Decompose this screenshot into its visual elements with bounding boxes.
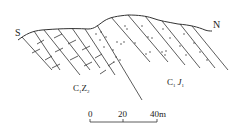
- scale-bar: 0 20 40m: [88, 109, 166, 122]
- sand-dot: [147, 36, 148, 37]
- sand-dot: [95, 33, 96, 34]
- bedding-line: [85, 29, 115, 75]
- sand-dot: [113, 61, 114, 62]
- sand-dot: [193, 42, 194, 43]
- sand-dot: [145, 53, 146, 54]
- sand-dot: [141, 25, 142, 26]
- sand-dot: [164, 54, 165, 55]
- sand-dot: [185, 54, 186, 55]
- sand-dot: [124, 25, 125, 26]
- limestone-tick: [95, 54, 102, 58]
- limestone-tick: [54, 34, 62, 38]
- sand-dot: [149, 51, 150, 52]
- scale-tick-label: 0: [88, 109, 93, 119]
- sand-dot: [115, 56, 116, 57]
- sand-dot: [105, 36, 106, 37]
- formation-label-c1j1: C1J1: [167, 77, 185, 88]
- limestone-tick: [82, 46, 90, 50]
- sand-dot: [126, 28, 127, 29]
- formation-label-c1z2: C1Z2: [73, 83, 90, 94]
- sand-dot: [120, 43, 121, 44]
- cross-section-diagram: S N C1Z2 C1J1 0 20 40m: [0, 0, 237, 134]
- limestone-pattern: [32, 34, 114, 74]
- limestone-tick: [68, 40, 76, 44]
- sand-dot: [112, 49, 113, 50]
- limestone-tick: [70, 56, 78, 60]
- bedding-line: [192, 26, 228, 70]
- bedding-line: [22, 37, 52, 70]
- sand-dot: [162, 28, 163, 29]
- sand-dot: [151, 37, 152, 38]
- limestone-tick: [108, 62, 114, 66]
- bedding-line: [111, 17, 150, 62]
- sand-dot: [206, 59, 207, 60]
- direction-label-south: S: [15, 27, 21, 38]
- sand-dot: [183, 33, 184, 34]
- sand-dot: [161, 51, 162, 52]
- sand-dot: [100, 31, 101, 32]
- bedding-line: [145, 16, 185, 65]
- scale-tick-label: 40m: [150, 109, 166, 119]
- scale-tick-label: 20: [118, 109, 128, 119]
- sand-dot: [119, 59, 120, 60]
- sand-dot: [103, 46, 104, 47]
- sand-dot: [116, 41, 117, 42]
- sand-dot: [99, 39, 100, 40]
- bedding-line: [44, 30, 80, 75]
- bedding-line: [58, 29, 90, 70]
- bedding-line: [162, 21, 200, 68]
- sand-dot: [199, 51, 200, 52]
- sand-dot: [123, 41, 124, 42]
- direction-label-north: N: [213, 19, 220, 30]
- bedding-line: [128, 15, 168, 62]
- sand-dot: [179, 45, 180, 46]
- limestone-tick: [100, 70, 106, 74]
- sand-dot: [169, 37, 170, 38]
- bedding-line: [97, 25, 142, 100]
- sand-dot: [165, 50, 166, 51]
- formation-subscript: 2: [87, 89, 90, 94]
- limestone-tick: [45, 56, 52, 60]
- sand-dot: [134, 42, 135, 43]
- formation-subscript: 1: [182, 83, 185, 88]
- formation-subscript: 1: [173, 83, 176, 88]
